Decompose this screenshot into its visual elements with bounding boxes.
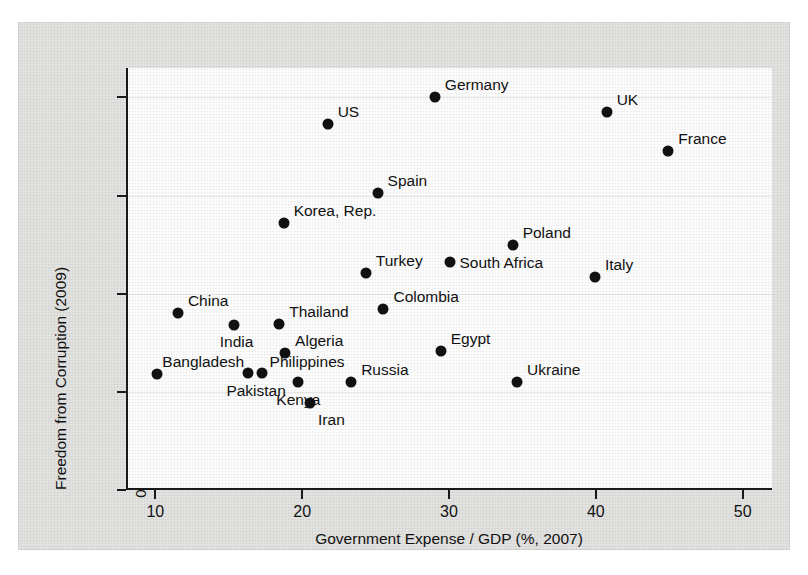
point-label: Algeria bbox=[295, 333, 343, 349]
point-label: Italy bbox=[605, 257, 633, 273]
y-tick-0 bbox=[117, 489, 126, 491]
data-point bbox=[322, 119, 333, 130]
data-point bbox=[243, 368, 254, 379]
data-point bbox=[435, 346, 446, 357]
point-label: UK bbox=[617, 92, 639, 108]
y-tick-6 bbox=[117, 195, 126, 197]
data-point bbox=[378, 304, 389, 315]
point-label: Egypt bbox=[451, 331, 491, 347]
data-point bbox=[663, 146, 674, 157]
x-tick-label: 30 bbox=[440, 503, 458, 521]
point-label: France bbox=[678, 131, 726, 147]
point-label: Ukraine bbox=[527, 362, 580, 378]
data-point bbox=[346, 376, 357, 387]
data-point bbox=[256, 368, 267, 379]
data-point bbox=[305, 397, 316, 408]
x-tick-50 bbox=[742, 490, 744, 499]
point-label: Spain bbox=[388, 173, 428, 189]
x-tick-20 bbox=[301, 490, 303, 499]
y-axis-title: Freedom from Corruption (2009) bbox=[52, 267, 70, 490]
data-point bbox=[152, 368, 163, 379]
figure: Freedom from Corruption (2009) 02468 102… bbox=[0, 0, 808, 575]
data-point bbox=[293, 376, 304, 387]
x-tick-30 bbox=[448, 490, 450, 499]
x-tick-label: 10 bbox=[146, 503, 164, 521]
point-label: South Africa bbox=[460, 255, 544, 271]
point-label: China bbox=[188, 293, 229, 309]
x-tick-label: 50 bbox=[734, 503, 752, 521]
x-tick-40 bbox=[595, 490, 597, 499]
data-point bbox=[589, 271, 600, 282]
data-point bbox=[360, 268, 371, 279]
point-label: Korea, Rep. bbox=[294, 203, 377, 219]
data-point bbox=[228, 319, 239, 330]
plot-area: GermanyUKUSFranceSpainKorea, Rep.PolandS… bbox=[126, 68, 772, 490]
data-point bbox=[372, 188, 383, 199]
y-tick-4 bbox=[117, 293, 126, 295]
data-point bbox=[507, 239, 518, 250]
point-label: Russia bbox=[361, 362, 408, 378]
point-label: Iran bbox=[318, 412, 345, 428]
point-label: Poland bbox=[523, 225, 571, 241]
point-label: Germany bbox=[445, 77, 509, 93]
point-label: Philippines bbox=[270, 354, 345, 370]
x-tick-10 bbox=[154, 490, 156, 499]
gridline-y-8 bbox=[128, 97, 772, 98]
scan-background: Freedom from Corruption (2009) 02468 102… bbox=[18, 22, 790, 550]
x-axis-title: Government Expense / GDP (%, 2007) bbox=[315, 530, 583, 548]
data-point bbox=[172, 308, 183, 319]
data-point bbox=[444, 256, 455, 267]
gridline-y-2 bbox=[128, 392, 772, 393]
data-point bbox=[278, 217, 289, 228]
data-point bbox=[512, 376, 523, 387]
y-tick-2 bbox=[117, 391, 126, 393]
point-label: Thailand bbox=[289, 304, 348, 320]
gridline-y-6 bbox=[128, 196, 772, 197]
data-point bbox=[429, 92, 440, 103]
x-tick-label: 40 bbox=[587, 503, 605, 521]
data-point bbox=[274, 319, 285, 330]
point-label: US bbox=[338, 104, 360, 120]
point-label: India bbox=[220, 334, 254, 350]
point-label: Turkey bbox=[376, 253, 423, 269]
data-point bbox=[601, 107, 612, 118]
x-tick-label: 20 bbox=[293, 503, 311, 521]
point-label: Colombia bbox=[393, 289, 458, 305]
y-tick-8 bbox=[117, 96, 126, 98]
point-label: Bangladesh bbox=[162, 354, 244, 370]
